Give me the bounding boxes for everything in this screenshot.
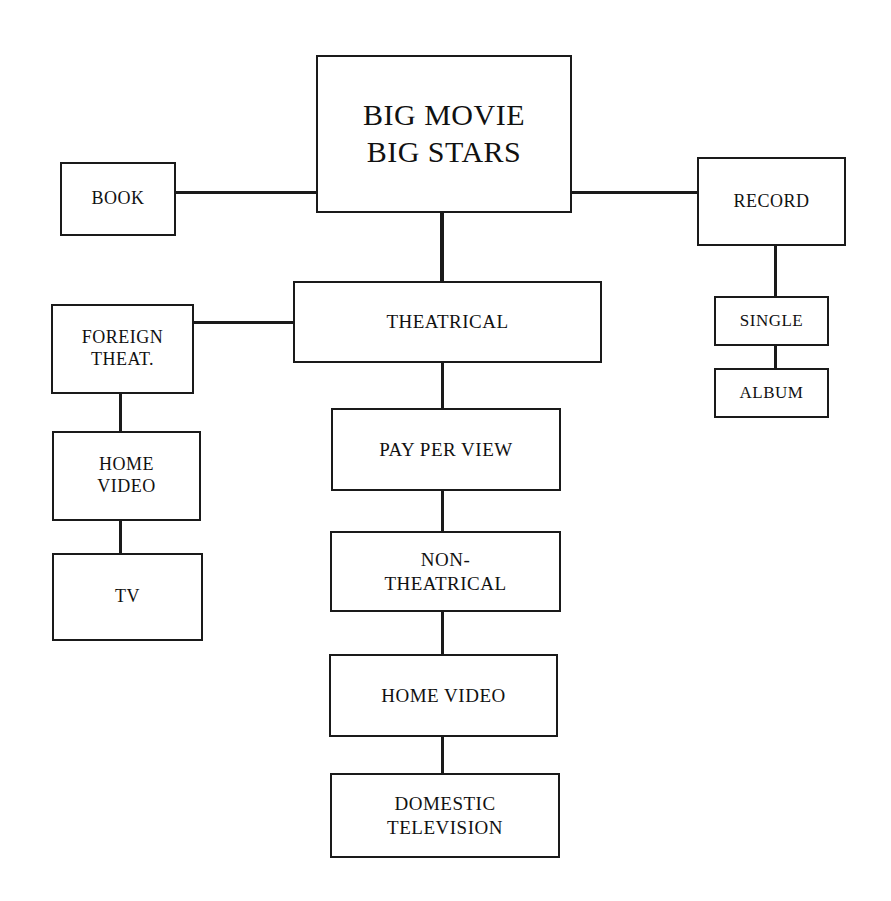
node-label-home-video-mid: HOME VIDEO (375, 684, 511, 707)
node-label-foreign-theat: FOREIGN THEAT. (76, 327, 170, 371)
node-label-record: RECORD (727, 191, 815, 213)
connector-root-record (571, 191, 698, 194)
node-label-single: SINGLE (734, 311, 809, 332)
connector-book-root (176, 191, 317, 194)
node-label-root: BIG MOVIE BIG STARS (357, 97, 531, 170)
connector-non-theatrical-home-video (441, 611, 444, 655)
node-book: BOOK (60, 162, 176, 236)
node-foreign-theat: FOREIGN THEAT. (51, 304, 194, 394)
connector-foreign-theat-home-video (119, 393, 122, 432)
connector-pay-per-view-non-theatrical (441, 490, 444, 532)
node-label-home-video-left: HOME VIDEO (91, 454, 162, 498)
connector-home-video-tv (119, 520, 122, 554)
node-home-video-mid: HOME VIDEO (329, 654, 558, 737)
node-theatrical: THEATRICAL (293, 281, 602, 363)
node-album: ALBUM (714, 368, 829, 418)
node-label-book: BOOK (85, 188, 150, 210)
node-label-theatrical: THEATRICAL (380, 310, 514, 333)
node-label-domestic-tv: DOMESTIC TELEVISION (381, 792, 509, 838)
node-label-non-theatrical: NON- THEATRICAL (378, 548, 512, 594)
connector-foreign-theat-theatrical (193, 321, 294, 324)
node-label-pay-per-view: PAY PER VIEW (373, 438, 518, 461)
connector-theatrical-pay-per-view (441, 362, 444, 409)
node-single: SINGLE (714, 296, 829, 346)
connector-home-video-domestic-tv (441, 736, 444, 774)
node-root: BIG MOVIE BIG STARS (316, 55, 572, 213)
node-label-album: ALBUM (734, 383, 810, 404)
diagram-canvas: BIG MOVIE BIG STARSBOOKRECORDSINGLEALBUM… (0, 0, 891, 901)
node-pay-per-view: PAY PER VIEW (331, 408, 561, 491)
node-tv: TV (52, 553, 203, 641)
node-domestic-tv: DOMESTIC TELEVISION (330, 773, 560, 858)
node-label-tv: TV (109, 586, 146, 608)
node-record: RECORD (697, 157, 846, 246)
connector-root-theatrical (440, 212, 444, 282)
connector-single-album (774, 345, 777, 370)
node-non-theatrical: NON- THEATRICAL (330, 531, 561, 612)
connector-record-single (774, 245, 777, 297)
node-home-video-left: HOME VIDEO (52, 431, 201, 521)
